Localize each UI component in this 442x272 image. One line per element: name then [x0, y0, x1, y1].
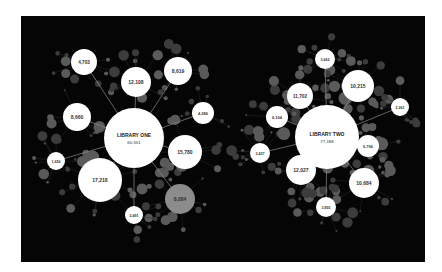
satellite-bubble	[55, 51, 60, 56]
value-node[interactable]: 8,619	[164, 57, 192, 85]
satellite-bubble	[132, 49, 139, 56]
satellite-bubble	[298, 65, 303, 70]
satellite-bubble	[214, 165, 221, 172]
value-node[interactable]: 3,662	[315, 49, 335, 69]
satellite-bubble	[288, 199, 297, 208]
satellite-bubble	[132, 169, 137, 174]
satellite-bubble	[104, 72, 108, 76]
value-node[interactable]: 12,108	[121, 67, 151, 97]
satellite-bubble	[232, 153, 239, 160]
satellite-bubble	[293, 208, 302, 217]
satellite-bubble	[70, 75, 79, 84]
satellite-bubble	[168, 178, 172, 182]
value-node[interactable]: 3,437	[250, 143, 270, 163]
satellite-bubble	[298, 197, 301, 200]
satellite-bubble	[200, 70, 209, 79]
satellite-bubble	[329, 100, 333, 104]
value-node[interactable]: 8,084	[165, 184, 195, 214]
satellite-bubble	[245, 158, 248, 161]
value-node[interactable]: 10,215	[342, 70, 374, 102]
satellite-bubble	[164, 39, 174, 49]
satellite-bubble	[368, 97, 377, 106]
satellite-bubble	[342, 217, 352, 227]
value-node[interactable]: 11,702	[287, 83, 313, 109]
value-node[interactable]: 2,491	[125, 206, 143, 224]
satellite-bubble	[335, 230, 337, 232]
node-value: 12,108	[128, 79, 144, 85]
value-node[interactable]: 2,261	[391, 98, 409, 116]
satellite-bubble	[357, 105, 365, 113]
library-one-hub[interactable]: LIBRARY ONE60,551	[104, 108, 164, 168]
hub-label: LIBRARY TWO	[310, 131, 345, 137]
satellite-bubble	[359, 131, 363, 135]
value-node[interactable]: 3,855	[316, 197, 336, 217]
satellite-bubble	[254, 132, 264, 142]
hub-circle[interactable]	[104, 108, 164, 168]
value-node[interactable]: 10,684	[349, 168, 379, 198]
satellite-bubble	[269, 76, 279, 86]
satellite-bubble	[155, 179, 164, 188]
node-value: 11,702	[293, 94, 307, 99]
node-value: 12,027	[293, 167, 309, 173]
satellite-bubble	[93, 213, 96, 216]
satellite-bubble	[66, 204, 75, 213]
satellite-bubble	[61, 69, 70, 78]
satellite-bubble	[244, 125, 254, 135]
satellite-bubble	[147, 225, 151, 229]
satellite-bubble	[359, 115, 364, 120]
satellite-bubble	[187, 52, 189, 54]
satellite-bubble	[37, 131, 47, 141]
satellite-bubble	[144, 214, 153, 223]
satellite-bubble	[329, 81, 340, 92]
satellite-bubble	[189, 99, 195, 105]
value-node[interactable]: 1,656	[47, 152, 65, 170]
value-node[interactable]: 8,660	[63, 103, 91, 131]
value-nodes: 4,70312,1088,6194,28615,7808,0842,49117,…	[47, 49, 409, 224]
library-two-hub[interactable]: LIBRARY TWO77,188	[295, 105, 359, 169]
satellite-bubble	[206, 95, 209, 98]
hub-circle[interactable]	[295, 105, 359, 169]
satellite-bubble	[52, 71, 56, 75]
satellite-bubble	[46, 181, 49, 184]
satellite-bubble	[298, 45, 306, 53]
value-node[interactable]: 5,796	[357, 135, 379, 157]
satellite-bubble	[338, 58, 340, 60]
satellite-bubble	[175, 88, 178, 91]
node-value: 3,855	[322, 206, 331, 210]
satellite-bubble	[405, 118, 408, 121]
satellite-bubble	[268, 163, 276, 171]
value-node[interactable]: 17,218	[78, 158, 122, 202]
satellite-bubble	[181, 115, 183, 117]
hub-label: LIBRARY ONE	[117, 132, 152, 138]
node-value: 10,684	[356, 180, 372, 186]
satellite-bubble	[167, 117, 174, 124]
satellite-bubble	[47, 119, 57, 129]
node-value: 4,703	[78, 60, 90, 65]
satellite-bubble	[156, 204, 162, 210]
satellite-bubble	[363, 59, 368, 64]
satellite-bubble	[154, 70, 163, 79]
value-node[interactable]: 4,703	[71, 49, 97, 75]
satellite-bubble	[309, 190, 318, 199]
satellite-bubble	[137, 183, 148, 194]
satellite-bubble	[201, 177, 203, 179]
hub-value: 60,551	[127, 140, 141, 145]
satellite-bubble	[90, 134, 93, 137]
value-node[interactable]: 6,104	[266, 106, 288, 128]
value-node[interactable]: 15,780	[168, 135, 202, 169]
satellite-bubble	[275, 168, 282, 175]
satellite-bubble	[287, 188, 295, 196]
satellite-bubble	[106, 58, 110, 62]
node-value: 3,437	[256, 152, 265, 156]
satellite-bubble	[380, 107, 383, 110]
node-value: 4,286	[198, 111, 209, 116]
satellite-bubble	[346, 56, 356, 66]
satellite-bubble	[35, 162, 37, 164]
value-node[interactable]: 4,286	[192, 102, 214, 124]
satellite-bubble	[320, 221, 323, 224]
satellite-bubble	[270, 85, 280, 95]
satellite-bubble	[375, 105, 378, 108]
satellite-bubble	[109, 67, 120, 78]
satellite-bubble	[303, 65, 312, 74]
satellite-bubble	[342, 69, 346, 73]
